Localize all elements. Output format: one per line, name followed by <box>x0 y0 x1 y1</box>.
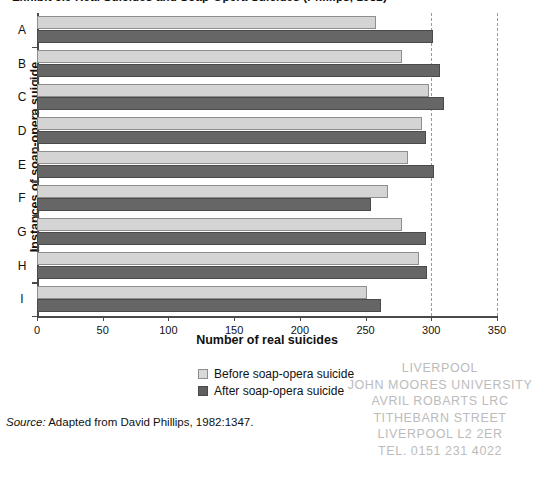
y-tick-I <box>32 316 37 317</box>
x-tick-50 <box>103 316 104 321</box>
y-tick-D <box>32 148 37 149</box>
legend-item-after: After soap-opera suicide <box>198 383 354 398</box>
x-tick-150 <box>234 316 235 321</box>
x-tick-200 <box>300 316 301 321</box>
bar-D-after <box>37 131 426 144</box>
source-text: Adapted from David Phillips, 1982:1347. <box>46 416 254 428</box>
y-category-label-E: E <box>13 158 31 172</box>
stamp-line-6: TEL. 0151 231 4022 <box>342 443 538 460</box>
y-category-label-C: C <box>13 90 31 104</box>
library-stamp: LIVERPOOLJOHN MOORES UNIVERSITYAVRIL ROB… <box>342 360 538 459</box>
y-category-label-H: H <box>13 259 31 273</box>
y-category-label-D: D <box>13 124 31 138</box>
bar-G-before <box>37 218 402 231</box>
source-note: Source: Adapted from David Phillips, 198… <box>6 416 253 428</box>
chart-legend: Before soap-opera suicideAfter soap-oper… <box>198 366 354 400</box>
bar-E-after <box>37 165 434 178</box>
legend-swatch-after-icon <box>198 386 208 396</box>
y-tick-A <box>32 47 37 48</box>
stamp-line-2: JOHN MOORES UNIVERSITY <box>342 377 538 394</box>
x-tick-350 <box>497 316 498 321</box>
y-tick-G <box>32 249 37 250</box>
plot-area: 050100150200250300350ABCDEFGHI <box>37 13 497 316</box>
stamp-line-5: LIVERPOOL L2 2ER <box>342 426 538 443</box>
x-tick-300 <box>431 316 432 321</box>
legend-label-after: After soap-opera suicide <box>214 384 344 398</box>
bar-H-before <box>37 252 419 265</box>
legend-item-before: Before soap-opera suicide <box>198 366 354 381</box>
y-category-label-G: G <box>13 225 31 239</box>
bar-G-after <box>37 232 426 245</box>
y-tick-B <box>32 80 37 81</box>
figure-root: Exhibit 5.9 Real Suicides and Soap-Opera… <box>0 0 538 481</box>
y-category-label-I: I <box>13 292 31 306</box>
legend-swatch-before-icon <box>198 369 208 379</box>
bar-I-before <box>37 286 367 299</box>
y-category-label-F: F <box>13 191 31 205</box>
y-tick-E <box>32 181 37 182</box>
bar-I-after <box>37 299 381 312</box>
bar-B-before <box>37 50 402 63</box>
bar-F-after <box>37 198 371 211</box>
stamp-line-3: AVRIL ROBARTS LRC <box>342 393 538 410</box>
bar-H-after <box>37 266 427 279</box>
gridline-350 <box>497 13 498 316</box>
bar-E-before <box>37 151 408 164</box>
bar-B-after <box>37 64 440 77</box>
stamp-line-1: LIVERPOOL <box>342 360 538 377</box>
x-axis-title: Number of real suicides <box>37 333 497 347</box>
y-tick-F <box>32 215 37 216</box>
bar-C-before <box>37 84 429 97</box>
x-tick-250 <box>366 316 367 321</box>
stamp-line-4: TITHEBARN STREET <box>342 410 538 427</box>
x-axis-line <box>37 316 497 318</box>
y-category-label-A: A <box>13 23 31 37</box>
bar-F-before <box>37 185 388 198</box>
y-tick-C <box>32 114 37 115</box>
figure-title: Exhibit 5.9 Real Suicides and Soap-Opera… <box>12 0 442 5</box>
legend-label-before: Before soap-opera suicide <box>214 367 354 381</box>
bar-D-before <box>37 117 422 130</box>
y-category-label-B: B <box>13 57 31 71</box>
x-tick-0 <box>37 316 38 321</box>
bar-A-before <box>37 16 376 29</box>
source-label: Source: <box>6 416 46 428</box>
bar-A-after <box>37 30 433 43</box>
bar-C-after <box>37 97 444 110</box>
x-tick-100 <box>168 316 169 321</box>
y-tick-H <box>32 282 37 283</box>
